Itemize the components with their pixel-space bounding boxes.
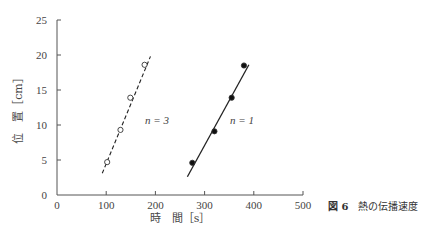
x-tick-label: 0 — [54, 199, 60, 211]
y-tick-label: 5 — [42, 154, 48, 166]
x-tick-label: 200 — [147, 199, 164, 211]
open-circle-marker — [105, 160, 110, 165]
x-tick-label: 400 — [246, 199, 263, 211]
open-circle-marker — [142, 62, 147, 67]
filled-circle-marker — [241, 63, 246, 68]
y-tick-label: 0 — [42, 189, 48, 201]
figure-title: 熱の伝播速度 — [358, 201, 418, 212]
series-n=3 — [102, 56, 150, 173]
y-tick-label: 10 — [36, 119, 48, 131]
figure-caption: 図 6 熱の伝播速度 — [328, 198, 418, 213]
open-circle-marker — [118, 127, 123, 132]
filled-circle-marker — [229, 95, 234, 100]
dashed-fit-line — [102, 56, 150, 173]
axes — [57, 20, 303, 195]
y-axis-label: 位 置［cm］ — [11, 72, 25, 144]
x-ticks: 0100200300400500 — [54, 191, 312, 211]
figure-number: 図 6 — [328, 201, 348, 212]
x-tick-label: 300 — [196, 199, 213, 211]
series-label-n3: n = 3 — [145, 114, 169, 126]
x-tick-label: 500 — [295, 199, 312, 211]
filled-circle-marker — [190, 160, 195, 165]
series — [102, 56, 249, 176]
open-circle-marker — [128, 95, 133, 100]
series-label-n1: n = 1 — [230, 114, 254, 126]
x-axis-label: 時 間［s］ — [150, 212, 211, 225]
x-tick-label: 100 — [98, 199, 115, 211]
y-tick-label: 20 — [36, 49, 48, 61]
y-tick-label: 15 — [36, 84, 48, 96]
filled-circle-marker — [212, 129, 217, 134]
y-tick-label: 25 — [36, 14, 48, 26]
